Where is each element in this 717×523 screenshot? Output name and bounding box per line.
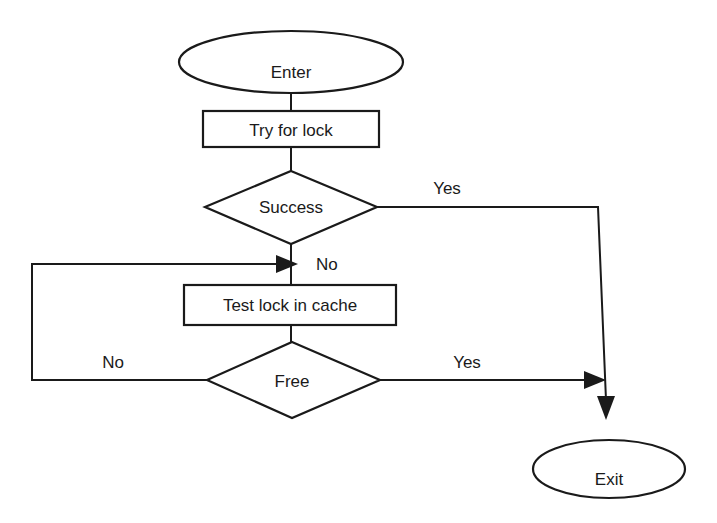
edge-label-success-no: No (316, 255, 338, 274)
arrow-down-icon (597, 396, 615, 420)
flowchart-canvas: Enter Try for lock Success Test lock in … (0, 0, 717, 523)
node-exit-label: Exit (595, 470, 624, 489)
edge-label-success-yes: Yes (433, 179, 461, 198)
node-enter: Enter (179, 31, 403, 93)
edge-success-yes (377, 207, 606, 400)
node-success-label: Success (259, 198, 323, 217)
node-test-cache: Test lock in cache (184, 285, 396, 325)
node-try-lock: Try for lock (203, 111, 379, 147)
edge-label-free-no: No (102, 353, 124, 372)
node-try-lock-label: Try for lock (249, 121, 333, 140)
node-test-cache-label: Test lock in cache (223, 296, 357, 315)
arrow-right-icon (276, 255, 298, 273)
node-enter-label: Enter (271, 63, 312, 82)
node-free-label: Free (275, 372, 310, 391)
node-success: Success (205, 171, 377, 244)
node-exit: Exit (533, 440, 685, 498)
edge-label-free-yes: Yes (453, 353, 481, 372)
arrow-right-icon (584, 371, 606, 389)
node-free: Free (207, 342, 380, 418)
